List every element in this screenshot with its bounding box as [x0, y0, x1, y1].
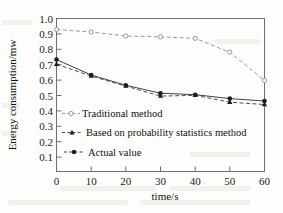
x-tick-label: 30 — [155, 175, 167, 187]
series-traditional-method — [54, 27, 266, 82]
legend-entry-traditional-method[interactable]: Traditional method — [62, 108, 163, 119]
y-tick-label: 0.4 — [39, 105, 53, 117]
y-tick-label: 0.6 — [39, 74, 53, 86]
data-point — [158, 35, 162, 39]
x-axis-ticks — [57, 167, 265, 172]
data-point — [124, 34, 128, 38]
data-point — [54, 57, 59, 62]
filled-circle-icon — [72, 150, 76, 154]
series-probability-statistics-method — [54, 61, 267, 106]
y-tick-label: 0.2 — [39, 136, 53, 148]
data-point — [124, 83, 129, 88]
y-tick-label: 0.1 — [39, 151, 53, 163]
legend-label: Actual value — [88, 147, 142, 158]
data-point — [158, 91, 163, 96]
energy-consumption-line-chart: 1.0 0.9 0.8 0.7 0.6 0.5 0.4 0.3 0.2 0.1 … — [0, 0, 283, 213]
y-tick-label: 0.8 — [39, 43, 53, 55]
legend-entry-actual-value[interactable]: Actual value — [64, 147, 142, 158]
y-axis-tick-labels: 1.0 0.9 0.8 0.7 0.6 0.5 0.4 0.3 0.2 0.1 — [39, 13, 53, 164]
data-point — [262, 78, 266, 82]
data-point — [54, 27, 58, 31]
x-tick-label: 60 — [259, 175, 271, 187]
x-tick-label: 20 — [120, 175, 132, 187]
legend-label: Based on probability statistics method — [86, 127, 247, 138]
open-circle-icon — [69, 111, 73, 115]
y-tick-label: 1.0 — [39, 13, 53, 25]
y-tick-label: 0.3 — [39, 120, 53, 132]
data-point — [228, 96, 233, 101]
data-point — [262, 99, 267, 104]
x-tick-label: 10 — [86, 175, 98, 187]
x-axis-title: time/s — [152, 190, 179, 202]
data-point — [193, 36, 197, 40]
x-axis-tick-labels: 0 10 20 30 40 50 60 — [54, 175, 271, 187]
x-tick-label: 40 — [190, 175, 202, 187]
data-point — [89, 30, 93, 34]
y-tick-label: 0.5 — [39, 90, 53, 102]
y-axis-ticks — [57, 19, 62, 158]
y-axis-title: Energy consumption/mw — [6, 40, 18, 151]
y-tick-label: 0.9 — [39, 28, 53, 40]
chart-legend: Traditional method Based on probability … — [62, 108, 247, 158]
legend-label: Traditional method — [82, 108, 163, 119]
data-point — [89, 73, 94, 78]
data-point — [193, 92, 198, 97]
legend-entry-probability-statistics-method[interactable]: Based on probability statistics method — [62, 127, 247, 138]
x-tick-label: 50 — [224, 175, 236, 187]
x-tick-label: 0 — [54, 175, 60, 187]
chart-screenshot: 1.0 0.9 0.8 0.7 0.6 0.5 0.4 0.3 0.2 0.1 … — [0, 0, 283, 213]
series-markers-traditional — [54, 27, 266, 82]
data-point — [228, 50, 232, 54]
series-markers-probability — [54, 61, 267, 106]
data-point — [54, 61, 59, 66]
y-tick-label: 0.7 — [39, 59, 53, 71]
